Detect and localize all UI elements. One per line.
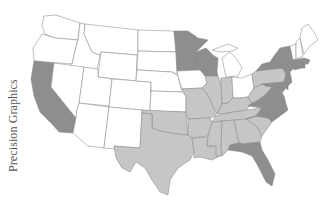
us-choropleth-map [0, 0, 330, 203]
state-MT [84, 24, 138, 55]
state-WY [98, 52, 137, 81]
state-FL [228, 142, 275, 186]
state-CO [109, 79, 151, 111]
state-ME [300, 24, 318, 54]
state-NM [104, 107, 142, 149]
state-ND [138, 30, 176, 52]
state-AZ [73, 103, 109, 148]
state-RI [302, 64, 305, 68]
map-credit: Precision Graphics [6, 79, 21, 172]
state-NY [256, 46, 294, 72]
state-KS [150, 91, 186, 112]
